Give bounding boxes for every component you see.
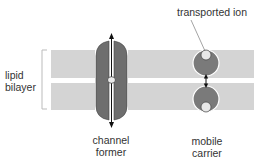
label-line: carrier — [179, 147, 235, 159]
label-line: bilayer — [5, 81, 36, 93]
bilayer-bracket — [42, 50, 47, 109]
membrane-lower-right — [128, 83, 254, 110]
label-line: former — [83, 146, 139, 158]
mobile-carrier — [193, 50, 219, 112]
carrier-ion-upper — [201, 50, 211, 60]
transported-ion-label: transported ion — [160, 6, 264, 18]
channel-half-right — [114, 41, 127, 120]
arrow-down-icon — [109, 122, 114, 128]
channel-former — [96, 33, 127, 128]
carrier-ion-lower — [201, 102, 211, 112]
membrane-upper-right — [128, 50, 254, 78]
mobile-carrier-label: mobile carrier — [179, 135, 235, 159]
channel-former-label: channel former — [83, 134, 139, 158]
channel-half-left — [96, 41, 109, 120]
membrane-lower-left — [51, 83, 95, 110]
label-line: lipid — [5, 69, 36, 81]
ion-pointer-line — [191, 20, 205, 51]
arrow-up-icon — [109, 33, 114, 39]
label-line: mobile — [179, 135, 235, 147]
lipid-bilayer-label: lipid bilayer — [5, 69, 36, 93]
channel-ion — [108, 77, 116, 84]
membrane-upper-left — [51, 50, 95, 78]
lipid-bilayer — [51, 50, 254, 110]
label-line: channel — [83, 134, 139, 146]
